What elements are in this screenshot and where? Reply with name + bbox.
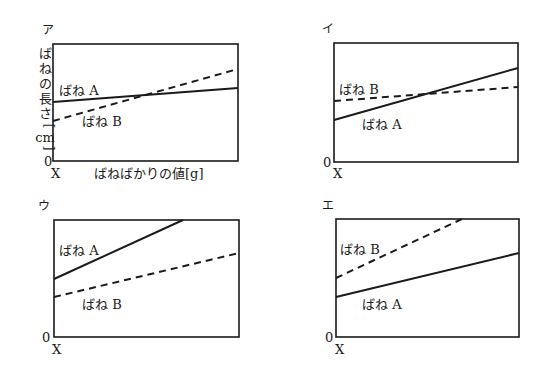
panel-label: エ <box>322 199 334 213</box>
plot-frame <box>53 44 238 161</box>
spring-graphs-figure: ア ばね A ばね B ば ね の 長 さ [ cm ] 0 X ばねばかりの値… <box>0 0 546 372</box>
y-label-char: さ <box>39 106 52 121</box>
y-label-char: ね <box>39 61 52 76</box>
spring-b-label: ばね B <box>339 82 379 97</box>
spring-b-label: ばね B <box>340 242 380 257</box>
spring-b-label: ばね B <box>82 297 122 312</box>
panel-i: イ ばね B ばね A 0 X <box>322 22 518 181</box>
spring-a-label: ばね A <box>59 243 99 258</box>
panel-label: ウ <box>38 199 50 213</box>
plot-frame <box>334 43 518 162</box>
panel-label: イ <box>322 22 334 36</box>
x-point-label: X <box>333 166 343 181</box>
spring-a-label: ばね A <box>59 83 99 98</box>
y-label-char: の <box>39 76 52 91</box>
panel-a: ア ばね A ばね B ば ね の 長 さ [ cm ] 0 X ばねばかりの値… <box>35 23 238 181</box>
x-axis-label: ばねばかりの値[g] <box>94 166 203 181</box>
plot-frame <box>336 219 519 337</box>
origin-label: 0 <box>325 330 333 345</box>
spring-a-label: ばね A <box>362 117 402 132</box>
y-label-char: 長 <box>39 91 52 106</box>
y-unit-bracket-close: ] <box>42 145 57 150</box>
spring-a-line <box>336 253 519 297</box>
panel-e: エ ばね B ばね A 0 X <box>322 199 519 357</box>
x-point-label: X <box>51 166 61 181</box>
spring-a-label: ばね A <box>362 297 402 312</box>
origin-label: 0 <box>42 330 50 345</box>
y-unit-bracket-open: [ <box>42 123 57 128</box>
panel-label: ア <box>42 23 54 37</box>
y-label-char: ば <box>39 46 52 61</box>
x-point-label: X <box>52 342 62 357</box>
spring-b-line <box>54 253 239 297</box>
spring-b-label: ばね B <box>82 114 122 129</box>
x-point-label: X <box>335 342 345 357</box>
panel-u: ウ ばね A ばね B 0 X <box>38 199 239 357</box>
origin-label: 0 <box>323 155 331 170</box>
y-unit: cm <box>35 130 55 145</box>
